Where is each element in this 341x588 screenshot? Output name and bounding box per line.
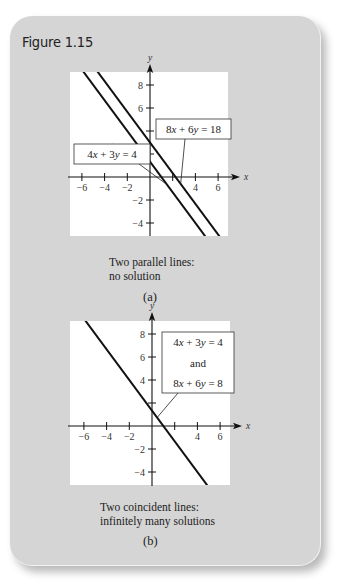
panel-label-b: (b): [143, 534, 158, 549]
x-tick-label: 6: [218, 431, 223, 442]
y-axis-label: y: [149, 301, 155, 311]
x-tick-label: −4: [101, 431, 112, 442]
y-tick-label: 4: [140, 375, 145, 386]
caption-b: Two coincident lines: infinitely many so…: [100, 500, 215, 528]
x-tick-label: 4: [195, 431, 200, 442]
y-tick-label: 6: [140, 352, 145, 363]
equation-label: and: [190, 357, 206, 369]
x-tick-label: −6: [79, 431, 90, 442]
caption-b-line-2: infinitely many solutions: [100, 514, 215, 528]
caption-b-line-1: Two coincident lines:: [100, 500, 215, 514]
y-tick-label: −4: [134, 467, 145, 478]
equation-label: 4x + 3y = 4: [173, 336, 223, 348]
equation-label: 8x + 6y = 8: [173, 377, 223, 389]
y-tick-label: −2: [134, 444, 145, 455]
x-axis-label: x: [245, 421, 251, 431]
y-tick-label: 8: [140, 329, 145, 340]
x-tick-label: −2: [124, 431, 135, 442]
